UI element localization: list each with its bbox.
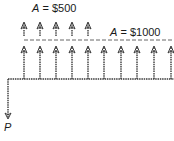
- lower-annuity-arrows: [21, 46, 174, 79]
- present-value-label: P: [4, 122, 11, 133]
- lower-annuity-label: A = $1000: [110, 27, 160, 38]
- upper-annuity-label: A = $500: [32, 3, 76, 14]
- upper-annuity-arrows: [21, 22, 91, 36]
- cash-flow-diagram: [0, 0, 174, 141]
